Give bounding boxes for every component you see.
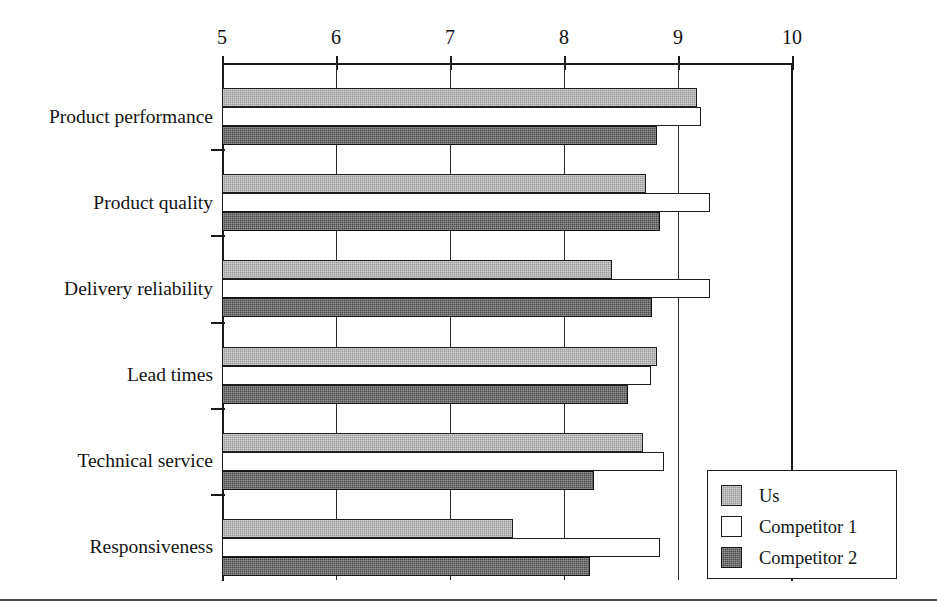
category-label: Technical service [1,450,221,472]
bar [222,452,664,471]
legend-label-competitor-2: Competitor 2 [759,548,857,568]
x-axis-tick-label: 6 [316,26,356,48]
gridline [678,63,679,580]
category-label: Responsiveness [1,536,221,558]
legend-item-competitor-1: Competitor 1 [708,511,896,542]
bar [222,385,628,404]
bar [222,538,660,557]
bar [222,557,590,576]
bar [222,433,643,452]
x-axis-tick-label: 5 [202,26,242,48]
legend-label-us: Us [759,486,780,506]
bar [222,519,513,538]
bar [222,107,701,126]
x-axis-tick-label: 7 [430,26,470,48]
page-divider-rule [0,599,937,601]
x-axis-tick-label: 8 [544,26,584,48]
bar [222,193,710,212]
legend-item-competitor-2: Competitor 2 [708,542,896,573]
chart-figure: 5678910 Product performanceProduct quali… [0,0,937,612]
bar [222,212,660,231]
category-label: Product performance [1,106,221,128]
bar [222,347,657,366]
legend-label-competitor-1: Competitor 1 [759,517,857,537]
x-axis-tick-label: 10 [772,26,812,48]
legend-swatch-competitor-2 [721,547,742,568]
bar [222,279,710,298]
legend-swatch-competitor-1 [721,516,742,537]
x-axis-tick-label: 9 [658,26,698,48]
bar [222,298,652,317]
bar [222,174,646,193]
category-label: Lead times [1,364,221,386]
bar [222,260,612,279]
legend-swatch-us [721,485,742,506]
category-label: Product quality [1,192,221,214]
legend-item-us: Us [708,480,896,511]
chart-legend: Us Competitor 1 Competitor 2 [707,470,897,579]
bar [222,88,697,107]
bar [222,366,651,385]
bar [222,126,657,145]
bar [222,471,594,490]
category-label: Delivery reliability [1,278,221,300]
